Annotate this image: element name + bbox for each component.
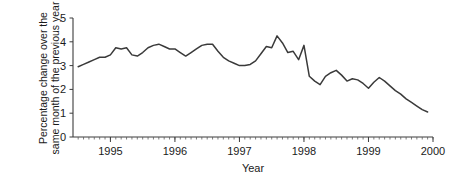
x-tick-label: 2000 [421, 145, 445, 157]
x-tick-label: 1998 [292, 145, 316, 157]
data-series-line [78, 36, 427, 112]
chart-svg: 012345 199519961997199819992000 Year Per… [0, 0, 465, 179]
x-tick-label: 1999 [356, 145, 380, 157]
x-tick-label: 1995 [98, 145, 122, 157]
line-chart: 012345 199519961997199819992000 Year Per… [0, 0, 465, 179]
x-axis-title: Year [242, 162, 265, 174]
x-axis-tick-labels: 199519961997199819992000 [98, 145, 445, 157]
x-tick-label: 1997 [227, 145, 251, 157]
x-tick-label: 1996 [163, 145, 187, 157]
y-axis-title-line2: same month of the previous year [49, 1, 61, 154]
y-axis-title-line1: Percentage change over the [37, 12, 49, 144]
